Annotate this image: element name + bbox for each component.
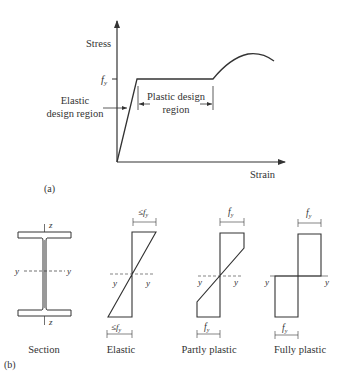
x-axis-label: Strain [250, 169, 276, 180]
plastic-region-label-2: region [163, 104, 191, 115]
fully-plastic-bottom-label: fy [282, 323, 288, 334]
partly-plastic-top-label: fy [228, 207, 234, 218]
stress-strain-figure: Stress fy Elastic design region Plastic … [0, 0, 350, 386]
fully-plastic-y-right: y [324, 277, 329, 287]
elastic-diagram: y y ≤fy ≤fy Elastic [107, 207, 156, 355]
y-label-right: y [66, 266, 71, 276]
z-label-bottom: z [48, 317, 53, 327]
elastic-y-left: y [112, 278, 117, 288]
partly-plastic-y-left: y [197, 277, 202, 287]
plastic-region-label-1: Plastic design [147, 91, 206, 102]
elastic-region-label-1: Elastic [61, 95, 90, 106]
elastic-caption: Elastic [107, 344, 136, 355]
part-b-label: (b) [4, 359, 16, 371]
partly-plastic-stress-distribution [197, 233, 244, 317]
partly-plastic-diagram: y y fy fy Partly plastic [181, 207, 244, 355]
elastic-y-right: y [145, 278, 150, 288]
partly-plastic-y-right: y [233, 277, 238, 287]
elastic-top-label: ≤fy [138, 207, 148, 218]
fully-plastic-diagram: y y fy fy Fully plastic [264, 208, 329, 355]
fully-plastic-stress-distribution [275, 234, 321, 317]
section-diagram: z z y y Section (b) [4, 220, 71, 371]
y-label-left: y [14, 266, 19, 276]
stress-strain-chart: Stress fy Elastic design region Plastic … [44, 21, 285, 195]
elastic-stress-distribution [108, 232, 156, 317]
fully-plastic-top-label: fy [306, 208, 312, 219]
partly-plastic-caption: Partly plastic [181, 344, 236, 355]
section-caption: Section [28, 344, 60, 355]
elastic-bottom-label: ≤fy [111, 322, 121, 333]
yield-label: fy [101, 74, 108, 87]
elastic-region-label-2: design region [47, 108, 105, 119]
fully-plastic-y-left: y [264, 277, 269, 287]
z-label-top: z [48, 220, 53, 230]
partly-plastic-bottom-label: fy [204, 322, 210, 333]
part-a-label: (a) [44, 183, 55, 195]
fully-plastic-caption: Fully plastic [274, 344, 327, 355]
y-axis-label: Stress [86, 38, 111, 49]
stress-strain-curve [117, 54, 274, 162]
